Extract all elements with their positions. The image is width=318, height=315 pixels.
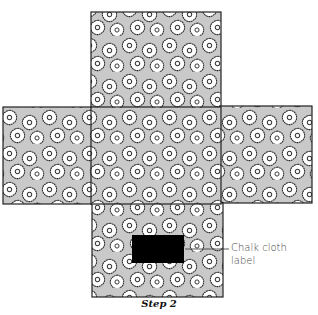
panel-center xyxy=(91,107,221,204)
panel-right xyxy=(220,106,312,203)
box-template-diagram xyxy=(0,0,318,315)
callout-line-2: label xyxy=(231,254,287,267)
callout-text: Chalk cloth label xyxy=(231,241,287,267)
figure-caption: Step 2 xyxy=(0,298,318,309)
panel-left xyxy=(3,107,92,204)
callout-line-1: Chalk cloth xyxy=(231,241,287,254)
panel-top xyxy=(91,12,221,108)
chalk-cloth-label xyxy=(132,235,184,263)
